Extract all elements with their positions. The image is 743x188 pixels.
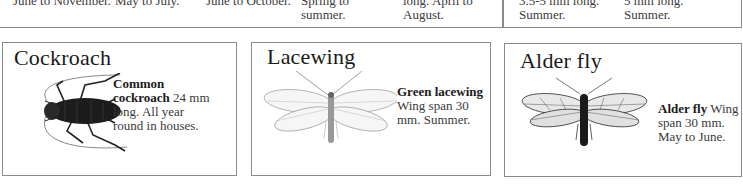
top-text-2: May to July.: [115, 0, 180, 8]
lacewing-illustration: [262, 71, 397, 151]
alder-fly-description: Alder fly Wing span 30 mm. May to June.: [658, 102, 740, 144]
top-text-3: June to October.: [206, 0, 291, 8]
panel-cockroach: Cockroach Common cockroach 24 mm long. A…: [2, 42, 237, 176]
alder-fly-illustration: [520, 76, 650, 148]
species-name: cockroach: [113, 90, 170, 105]
top-text-1: June to November.: [13, 0, 111, 8]
top-text-7: 5 mm long. Summer.: [624, 0, 684, 22]
panel-title: Cockroach: [14, 45, 111, 71]
species-name: Alder fly: [658, 101, 707, 116]
cockroach-description: Common cockroach 24 mm long. All year ro…: [113, 77, 233, 133]
species-name: Green lacewing: [397, 84, 483, 99]
panel-lacewing: Lacewing Green lacewing Wing span 30 mm.…: [251, 42, 491, 176]
panel-alder-fly: Alder fly Alder fly Wing span 30 mm. May…: [504, 43, 742, 177]
top-text-4: Spring to summer.: [301, 0, 349, 22]
panel-title: Alder fly: [520, 48, 602, 74]
species-name: Common: [113, 76, 164, 91]
panel-title: Lacewing: [267, 44, 355, 70]
lacewing-description: Green lacewing Wing span 30 mm. Summer.: [397, 85, 489, 127]
top-text-6: 3.5-5 mm long. Summer.: [519, 0, 599, 22]
top-text-5: long. April to August.: [403, 0, 473, 22]
